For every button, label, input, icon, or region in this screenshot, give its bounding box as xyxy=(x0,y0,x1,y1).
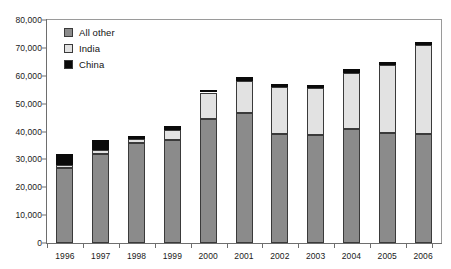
x-axis-tick-mark xyxy=(334,243,335,248)
x-axis-tick-label-1996: 1996 xyxy=(55,251,74,261)
stacked-bar-chart: 010,00020,00030,00040,00050,00060,00070,… xyxy=(0,0,451,269)
bar-2003[interactable] xyxy=(307,20,324,243)
bar-segment-china[interactable] xyxy=(92,140,109,151)
legend-label: China xyxy=(79,59,104,70)
x-axis-line xyxy=(46,243,442,244)
legend-item-china[interactable]: China xyxy=(64,56,115,72)
bar-segment-all-other[interactable] xyxy=(200,119,217,243)
x-axis-tick-label-1998: 1998 xyxy=(127,251,146,261)
y-axis-tick-labels: 010,00020,00030,00040,00050,00060,00070,… xyxy=(0,0,42,269)
legend-label: All other xyxy=(79,27,115,38)
x-axis-tick-label-2004: 2004 xyxy=(342,251,361,261)
bar-segment-india[interactable] xyxy=(128,139,145,143)
bar-segment-china[interactable] xyxy=(343,69,360,73)
bar-segment-china[interactable] xyxy=(379,62,396,65)
x-axis-tick-label-2001: 2001 xyxy=(234,251,253,261)
x-axis-tick-mark xyxy=(47,243,48,248)
x-axis-tick-mark xyxy=(191,243,192,248)
bar-segment-china[interactable] xyxy=(415,42,432,45)
bar-segment-china[interactable] xyxy=(56,154,73,165)
bar-segment-all-other[interactable] xyxy=(56,168,73,243)
bar-segment-all-other[interactable] xyxy=(92,154,109,243)
bar-segment-all-other[interactable] xyxy=(164,140,181,243)
legend-item-india[interactable]: India xyxy=(64,40,115,56)
bar-segment-china[interactable] xyxy=(236,77,253,80)
legend-label: India xyxy=(79,43,100,54)
bar-segment-india[interactable] xyxy=(236,81,253,114)
bar-segment-china[interactable] xyxy=(200,90,217,93)
bar-segment-india[interactable] xyxy=(379,65,396,133)
bar-2000[interactable] xyxy=(200,20,217,243)
bar-segment-india[interactable] xyxy=(343,73,360,129)
bar-segment-india[interactable] xyxy=(56,165,73,168)
bar-1998[interactable] xyxy=(128,20,145,243)
plot-right-border xyxy=(441,19,442,244)
bar-segment-india[interactable] xyxy=(164,130,181,141)
bar-segment-all-other[interactable] xyxy=(343,129,360,243)
bar-segment-all-other[interactable] xyxy=(236,113,253,243)
bar-2004[interactable] xyxy=(343,20,360,243)
y-axis-tick-label: 40,000 xyxy=(15,127,42,137)
y-axis-tick-label: 30,000 xyxy=(15,154,42,164)
bar-segment-all-other[interactable] xyxy=(415,134,432,243)
y-axis-tick-label: 50,000 xyxy=(15,99,42,109)
bar-2001[interactable] xyxy=(236,20,253,243)
x-axis-tick-mark xyxy=(406,243,407,248)
chart-legend: All otherIndiaChina xyxy=(64,24,115,72)
bar-2006[interactable] xyxy=(415,20,432,243)
y-axis-tick-label: 20,000 xyxy=(15,182,42,192)
y-axis-tick-label: 80,000 xyxy=(15,15,42,25)
bar-1999[interactable] xyxy=(164,20,181,243)
bar-segment-all-other[interactable] xyxy=(271,134,288,243)
x-axis-tick-label-2002: 2002 xyxy=(270,251,289,261)
x-axis-tick-mark xyxy=(262,243,263,248)
bar-segment-all-other[interactable] xyxy=(128,143,145,243)
x-axis-tick-mark xyxy=(370,243,371,248)
bar-segment-china[interactable] xyxy=(271,84,288,87)
x-axis-tick-mark xyxy=(155,243,156,248)
x-axis-tick-label-1999: 1999 xyxy=(163,251,182,261)
y-axis-tick-label: 10,000 xyxy=(15,210,42,220)
bar-2002[interactable] xyxy=(271,20,288,243)
bar-segment-india[interactable] xyxy=(415,45,432,134)
bar-segment-india[interactable] xyxy=(92,150,109,153)
bar-segment-all-other[interactable] xyxy=(307,135,324,243)
x-axis-tick-mark xyxy=(83,243,84,248)
x-axis-tick-mark xyxy=(432,243,433,248)
legend-swatch-icon xyxy=(64,60,73,69)
bar-segment-india[interactable] xyxy=(271,87,288,134)
legend-swatch-icon xyxy=(64,28,73,37)
x-axis-tick-label-2006: 2006 xyxy=(413,251,432,261)
bar-segment-china[interactable] xyxy=(307,85,324,88)
legend-item-all-other[interactable]: All other xyxy=(64,24,115,40)
bar-segment-china[interactable] xyxy=(128,136,145,139)
bar-segment-all-other[interactable] xyxy=(379,133,396,243)
x-axis-tick-mark xyxy=(119,243,120,248)
bar-segment-india[interactable] xyxy=(307,88,324,135)
legend-swatch-icon xyxy=(64,44,73,53)
bar-segment-china[interactable] xyxy=(164,126,181,130)
bar-segment-india[interactable] xyxy=(200,93,217,119)
x-axis-tick-mark xyxy=(298,243,299,248)
x-axis-tick-label-2000: 2000 xyxy=(199,251,218,261)
y-axis-tick-label: 70,000 xyxy=(15,43,42,53)
x-axis-tick-label-1997: 1997 xyxy=(91,251,110,261)
bar-2005[interactable] xyxy=(379,20,396,243)
x-axis-tick-mark xyxy=(227,243,228,248)
x-axis-tick-label-2003: 2003 xyxy=(306,251,325,261)
x-axis-tick-label-2005: 2005 xyxy=(378,251,397,261)
y-axis-tick-label: 60,000 xyxy=(15,71,42,81)
